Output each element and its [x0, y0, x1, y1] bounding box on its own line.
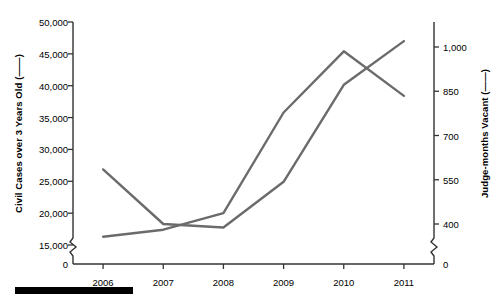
right-tick-label-850: 850	[443, 86, 491, 97]
left-axis-line	[70, 22, 76, 264]
right-tick-label-400: 400	[443, 219, 491, 230]
axes-group	[68, 22, 439, 269]
right-tick-label-1000: 1,000	[443, 42, 491, 53]
left-tick-label-40000: 40,000	[20, 80, 68, 91]
left-axis-title: Civil Cases over 3 Years Old (——)	[13, 34, 24, 234]
data-series-group	[103, 41, 404, 237]
series-line-2	[103, 41, 404, 227]
x-tick-label-2007: 2007	[153, 277, 174, 288]
x-tick-label-2011: 2011	[394, 277, 414, 288]
left-tick-label-25000: 25,000	[20, 176, 68, 187]
right-axis-line	[431, 22, 437, 264]
right-axis-zero-label: 0	[443, 259, 491, 270]
left-tick-label-50000: 50,000	[20, 17, 68, 28]
right-tick-label-700: 700	[443, 130, 491, 141]
chart-figure: Civil Cases over 3 Years Old (——) Judge-…	[0, 0, 497, 305]
left-tick-label-15000: 15,000	[20, 240, 68, 251]
left-axis-ticks	[68, 22, 73, 245]
chart-plot-area	[0, 0, 497, 305]
x-tick-label-2008: 2008	[213, 277, 234, 288]
left-tick-label-35000: 35,000	[20, 112, 68, 123]
x-tick-label-2010: 2010	[333, 277, 354, 288]
left-tick-label-30000: 30,000	[20, 144, 68, 155]
x-tick-label-2009: 2009	[273, 277, 294, 288]
right-axis-ticks	[434, 47, 439, 224]
x-axis-ticks	[103, 264, 404, 269]
bottom-black-bar	[15, 287, 133, 294]
left-tick-label-20000: 20,000	[20, 208, 68, 219]
left-axis-zero-label: 0	[20, 259, 68, 270]
left-tick-label-45000: 45,000	[20, 48, 68, 59]
right-tick-label-550: 550	[443, 174, 491, 185]
